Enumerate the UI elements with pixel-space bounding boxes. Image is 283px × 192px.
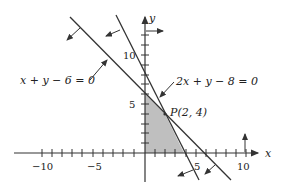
equation-label-1: x + y − 6 = 0 xyxy=(20,74,95,87)
graph: −10 −5 5 10 5 10 x y x + y − 6 = 0 2x + … xyxy=(0,0,283,192)
equation-label-2: 2x + y − 8 = 0 xyxy=(175,75,258,88)
halfplane-arrow-icon xyxy=(205,165,215,174)
x-tick-label-neg10: −10 xyxy=(32,161,53,172)
x-tick-label-5: 5 xyxy=(194,161,200,172)
feasible-region xyxy=(145,94,184,153)
y-tick-label-5: 5 xyxy=(129,99,135,110)
y-axis-label: y xyxy=(148,12,156,25)
point-p xyxy=(163,112,166,115)
line-x-plus-y-6 xyxy=(70,17,231,180)
halfplane-arrow-icon xyxy=(178,170,193,176)
x-tick-label-10: 10 xyxy=(237,161,250,172)
leader-arrow-icon xyxy=(160,82,174,97)
point-p-label: P(2, 4) xyxy=(169,106,207,119)
line-2x-plus-y-8 xyxy=(116,15,199,180)
leader-arrow-icon xyxy=(90,60,107,80)
x-tick-label-neg5: −5 xyxy=(87,161,102,172)
halfplane-arrow-icon xyxy=(106,30,120,36)
halfplane-arrow-icon xyxy=(67,28,80,40)
x-axis-label: x xyxy=(265,147,272,160)
